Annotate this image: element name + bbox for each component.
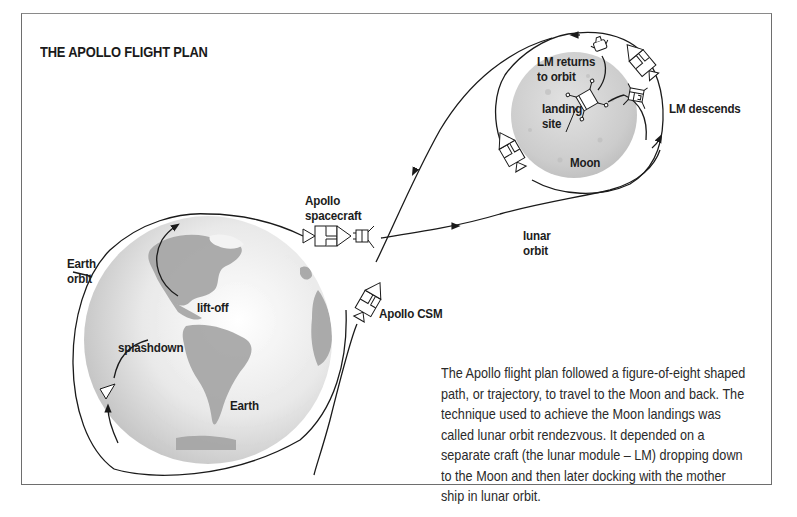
label-line: Earth bbox=[67, 256, 96, 271]
label-lm-returns: LM returns to orbit bbox=[537, 54, 595, 84]
label-line: to orbit bbox=[537, 69, 595, 84]
label-apollo-spacecraft: Apollo spacecraft bbox=[305, 193, 361, 223]
caption-line: called lunar orbit rendezvous. It depend… bbox=[441, 425, 770, 446]
caption-line: technique used to achieve the Moon landi… bbox=[441, 404, 770, 425]
label-apollo-csm: Apollo CSM bbox=[379, 306, 442, 321]
label-lunar-orbit: lunar orbit bbox=[523, 228, 551, 258]
label-line: orbit bbox=[523, 243, 551, 258]
label-moon: Moon bbox=[570, 155, 600, 170]
label-line: orbit bbox=[67, 271, 96, 286]
label-line: Apollo bbox=[305, 193, 361, 208]
label-landing-site: landing site bbox=[542, 101, 582, 131]
label-line: landing bbox=[542, 101, 582, 116]
label-earth: Earth bbox=[230, 398, 259, 413]
page-title: THE APOLLO FLIGHT PLAN bbox=[40, 43, 208, 60]
label-line: site bbox=[542, 116, 582, 131]
label-splashdown: splashdown bbox=[118, 340, 183, 355]
label-line: lunar bbox=[523, 228, 551, 243]
label-lm-descends: LM descends bbox=[669, 101, 741, 116]
label-earth-orbit: Earth orbit bbox=[67, 256, 96, 286]
apollo-spacecraft-icon bbox=[303, 226, 374, 248]
caption-line: ship in lunar orbit. bbox=[441, 486, 770, 507]
label-lift-off: lift-off bbox=[197, 300, 229, 315]
caption-text: The Apollo flight plan followed a figure… bbox=[441, 363, 770, 507]
caption-line: to the Moon and then later docking with … bbox=[441, 466, 770, 487]
label-line: spacecraft bbox=[305, 208, 361, 223]
label-line: LM returns bbox=[537, 54, 595, 69]
caption-line: separate craft (the lunar module – LM) d… bbox=[441, 445, 770, 466]
caption-line: path, or trajectory, to travel to the Mo… bbox=[441, 384, 770, 405]
lm-ascent-icon bbox=[589, 34, 610, 52]
caption-line: The Apollo flight plan followed a figure… bbox=[441, 363, 770, 384]
csm-lunar-orbit-right-icon bbox=[620, 39, 661, 83]
